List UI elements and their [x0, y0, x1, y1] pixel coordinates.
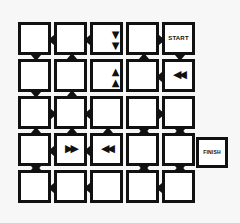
maze-cell-r1c3: [126, 59, 159, 92]
maze-cell-r0c3: [126, 22, 159, 55]
maze-cell-r2c4: [162, 96, 195, 129]
start-label: START: [165, 35, 192, 41]
maze-cell-r4c1: [54, 170, 87, 203]
maze-cell-r4c4: [162, 170, 195, 203]
maze-cell-r4c0: [18, 170, 51, 203]
maze-cell-r1c0: [18, 59, 51, 92]
notch-up-icon: [67, 90, 77, 96]
notch-up-icon: [139, 127, 149, 133]
maze-cell-r3c3: [126, 133, 159, 166]
notch-up-icon: [139, 53, 149, 59]
maze-cell-r1c4: ◀◀: [162, 59, 195, 92]
maze-cell-r3c0: [18, 133, 51, 166]
maze-finish-box: FINISH: [196, 137, 228, 168]
notch-up-icon: [175, 127, 185, 133]
notch-up-icon: [31, 127, 41, 133]
notch-up-icon: [175, 164, 185, 170]
notch-left-icon: [48, 35, 54, 45]
maze-cell-r2c2: [90, 96, 123, 129]
notch-left-icon: [84, 35, 90, 45]
maze-cell-r4c3: [126, 170, 159, 203]
maze-cell-r1c2: ▲▲: [90, 59, 123, 92]
maze-cell-r1c1: [54, 59, 87, 92]
finish-label: FINISH: [199, 149, 225, 155]
maze-diagram: ▼▼ START ▲▲ ◀◀ ▶▶ ◀◀ FINISH: [0, 0, 240, 223]
notch-left-icon: [84, 146, 90, 156]
maze-cell-r0c1: [54, 22, 87, 55]
maze-cell-r3c1: ▶▶: [54, 133, 87, 166]
left-double-arrow-icon: ◀◀: [93, 139, 120, 159]
notch-left-icon: [48, 146, 54, 156]
notch-up-icon: [139, 164, 149, 170]
notch-left-icon: [48, 183, 54, 193]
left-double-arrow-icon: ◀◀: [165, 65, 192, 85]
maze-cell-r2c1: [54, 96, 87, 129]
right-double-arrow-icon: ▶▶: [57, 139, 84, 159]
notch-up-icon: [67, 53, 77, 59]
notch-left-icon: [84, 109, 90, 119]
up-double-arrow-icon: ▲▲: [93, 66, 120, 88]
down-double-arrow-icon: ▼▼: [93, 29, 120, 51]
maze-cell-r2c0: [18, 96, 51, 129]
notch-up-icon: [67, 127, 77, 133]
notch-left-icon: [156, 183, 162, 193]
maze-cell-start: START: [162, 22, 195, 55]
notch-up-icon: [103, 127, 113, 133]
notch-left-icon: [84, 183, 90, 193]
maze-cell-r3c4: [162, 133, 195, 166]
maze-cell-r0c0: [18, 22, 51, 55]
notch-up-icon: [31, 164, 41, 170]
maze-cell-r3c2: ◀◀: [90, 133, 123, 166]
maze-cell-r4c2: [90, 170, 123, 203]
maze-cell-r2c3: [126, 96, 159, 129]
maze-cell-r0c2: ▼▼: [90, 22, 123, 55]
notch-left-icon: [156, 72, 162, 82]
